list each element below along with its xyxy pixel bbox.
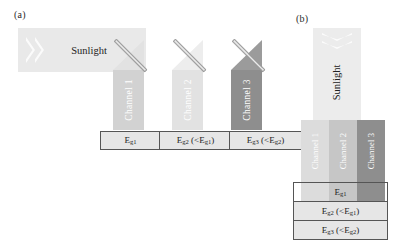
bandgap-row-eg2-b: Eg2 (<Eg1) <box>293 201 388 221</box>
channel-label-3-b: Channel 3 <box>366 133 376 170</box>
channel-bar-2-b: Channel 2 <box>329 120 357 182</box>
channel-bar-3-a: Channel 3 <box>231 70 262 130</box>
panel-a-tag: (a) <box>14 9 26 20</box>
channel-label-2-b: Channel 2 <box>338 133 348 170</box>
bandgap-text-eg1-a: Eg1 <box>124 135 136 145</box>
channel-label-2-a: Channel 2 <box>183 79 193 120</box>
bandgap-box-eg2-a: Eg2 (<Eg1) <box>159 131 232 150</box>
channel-bar-2-a: Channel 2 <box>172 70 203 130</box>
figure-canvas: (a) Sunlight Channel 1 Channel 2 Channel… <box>0 0 411 248</box>
panel-b-tag: (b) <box>296 13 308 24</box>
sunlight-beam-vertical: Sunlight <box>313 28 361 120</box>
bandgap-row-eg1-b: Eg1 <box>293 182 388 202</box>
channel-bar-1-a: Channel 1 <box>113 70 144 130</box>
bandgap-text-eg2-b: Eg2 (<Eg1) <box>322 206 360 216</box>
channel-label-1-a: Channel 1 <box>124 79 134 120</box>
bandgap-text-eg3-b: Eg3 (<Eg2) <box>322 225 360 235</box>
bandgap-box-eg1-a: Eg1 <box>100 131 161 150</box>
bandgap-text-eg3-a: Eg3 (<Eg2) <box>247 135 285 145</box>
channel-label-3-a: Channel 3 <box>242 79 252 120</box>
bandgap-row-eg3-b: Eg3 (<Eg2) <box>293 220 388 240</box>
channel-label-1-b: Channel 1 <box>310 133 320 170</box>
sunlight-label-b: Sunlight <box>313 28 361 120</box>
bandgap-box-eg3-a: Eg3 (<Eg2) <box>229 131 302 150</box>
bandgap-text-eg1-b: Eg1 <box>334 187 346 197</box>
channel-bar-3-b: Channel 3 <box>357 120 385 182</box>
bandgap-text-eg2-a: Eg2 (<Eg1) <box>177 135 215 145</box>
channel-bar-1-b: Channel 1 <box>301 120 329 182</box>
